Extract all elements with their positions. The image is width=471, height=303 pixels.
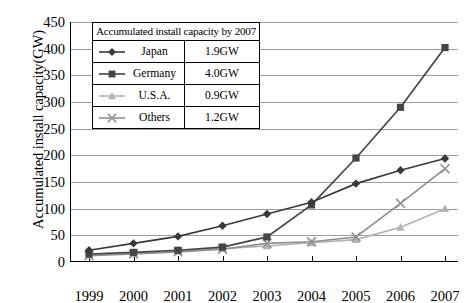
legend-marker-square-icon	[97, 67, 127, 81]
data-point-square	[352, 154, 359, 161]
data-point-diamond	[129, 239, 137, 247]
data-point-square	[174, 247, 181, 254]
y-tick-label: 150	[15, 175, 65, 190]
legend-rows: Japan1.9GWGermany4.0GWU.S.A.0.9GWOthers1…	[93, 41, 259, 128]
y-tick-label: 350	[15, 68, 65, 83]
y-tick-label: 450	[15, 15, 65, 30]
data-point-cross-star	[396, 199, 405, 208]
data-point-diamond	[263, 210, 271, 218]
legend-marker-triangle-icon	[97, 89, 127, 103]
data-point-triangle	[441, 204, 449, 212]
legend-key: U.S.A.	[93, 85, 185, 106]
y-tick-label: 200	[15, 148, 65, 163]
legend-row: Japan1.9GW	[93, 41, 259, 63]
data-point-square	[109, 70, 116, 77]
y-tick-label: 0	[15, 255, 65, 270]
data-point-square	[219, 243, 226, 250]
legend-row: U.S.A.0.9GW	[93, 85, 259, 107]
data-point-square	[130, 249, 137, 256]
legend-series-value: 4.0GW	[185, 68, 259, 80]
y-tick-label: 50	[15, 228, 65, 243]
data-point-square	[263, 233, 270, 240]
data-point-cross-star	[441, 164, 450, 173]
data-point-diamond	[352, 179, 360, 187]
legend-series-name: Japan	[127, 46, 184, 58]
legend-key: Germany	[93, 63, 185, 84]
legend-box: Accumulated install capacity by 2007 Jap…	[92, 22, 260, 129]
legend-key: Others	[93, 107, 185, 128]
legend-series-value: 1.9GW	[185, 46, 259, 58]
data-point-diamond	[218, 222, 226, 230]
legend-series-name: Others	[127, 112, 184, 124]
legend-key: Japan	[93, 41, 185, 62]
data-point-square	[397, 104, 404, 111]
legend-title: Accumulated install capacity by 2007	[93, 23, 259, 41]
data-point-diamond	[396, 166, 404, 174]
legend-marker-diamond-icon	[97, 45, 127, 59]
legend-series-value: 0.9GW	[185, 90, 259, 102]
y-tick-label: 300	[15, 95, 65, 110]
legend-series-value: 1.2GW	[185, 112, 259, 124]
data-point-square	[441, 44, 448, 51]
x-tick-label: 2007	[415, 288, 471, 303]
legend-row: Germany4.0GW	[93, 63, 259, 85]
data-point-diamond	[108, 48, 116, 56]
legend-marker-cross-star-icon	[97, 111, 127, 125]
y-tick-label: 250	[15, 122, 65, 137]
y-tick-label: 100	[15, 202, 65, 217]
chart-figure: Accumulated install capacity(GW) 0501001…	[0, 0, 471, 303]
data-point-diamond	[441, 154, 449, 162]
data-point-diamond	[174, 232, 182, 240]
y-tick-label: 400	[15, 42, 65, 57]
legend-series-name: Germany	[127, 68, 184, 80]
legend-row: Others1.2GW	[93, 107, 259, 128]
legend-series-name: U.S.A.	[127, 90, 184, 102]
